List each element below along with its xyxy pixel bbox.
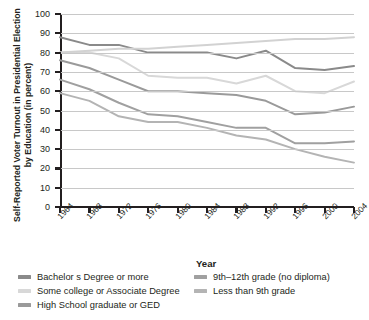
legend-swatch-icon: [194, 289, 207, 293]
y-axis-tick: [55, 129, 61, 131]
chart-legend: Bachelor s Degree or moreSome college or…: [18, 271, 358, 311]
grid-line: [60, 53, 354, 54]
plot-area: [60, 14, 354, 207]
legend-swatch-icon: [18, 303, 31, 307]
legend-item-label: High School graduate or GED: [37, 299, 160, 311]
legend-item: Bachelor s Degree or more: [18, 271, 188, 283]
y-axis-tick-label: 60: [24, 86, 50, 96]
y-axis-tick-label: 0: [24, 202, 50, 212]
legend-column-2: 9th–12th grade (no diploma)Less than 9th…: [194, 271, 330, 311]
y-axis-tick-label: 30: [24, 144, 50, 154]
y-axis-tick-label: 20: [24, 163, 50, 173]
legend-item-label: Bachelor s Degree or more: [37, 271, 149, 283]
y-axis-tick-label: 70: [24, 67, 50, 77]
x-axis-tick-label: 1964: [55, 201, 75, 221]
y-axis-tick-label: 90: [24, 28, 50, 38]
grid-line: [60, 168, 354, 169]
y-axis-tick: [55, 90, 61, 92]
y-axis-tick-label: 10: [24, 183, 50, 193]
legend-item-label: 9th–12th grade (no diploma): [213, 271, 330, 283]
legend-swatch-icon: [18, 275, 31, 279]
grid-line: [60, 72, 354, 73]
grid-line: [60, 14, 354, 15]
y-axis-tick: [55, 71, 61, 73]
y-axis-tick-label: 100: [24, 9, 50, 19]
legend-column-1: Bachelor s Degree or moreSome college or…: [18, 271, 188, 311]
y-axis-tick-label: 50: [24, 106, 50, 116]
grid-line: [60, 149, 354, 150]
legend-item-label: Some college or Associate Degree: [37, 285, 180, 297]
legend-item: Some college or Associate Degree: [18, 285, 188, 297]
legend-swatch-icon: [18, 289, 31, 293]
x-axis-title: Year: [196, 258, 216, 269]
y-axis-tick: [55, 110, 61, 112]
grid-line: [60, 91, 354, 92]
series-line: [60, 93, 354, 162]
grid-line: [60, 130, 354, 131]
legend-item: Less than 9th grade: [194, 285, 330, 297]
legend-item-label: Less than 9th grade: [213, 285, 295, 297]
y-axis-tick: [55, 52, 61, 54]
legend-item: High School graduate or GED: [18, 299, 188, 311]
grid-line: [60, 188, 354, 189]
legend-swatch-icon: [194, 275, 207, 279]
y-axis-tick: [55, 148, 61, 150]
y-axis-tick-label: 40: [24, 125, 50, 135]
y-axis-tick: [55, 13, 61, 15]
legend-item: 9th–12th grade (no diploma): [194, 271, 330, 283]
y-axis-tick-label: 80: [24, 48, 50, 58]
grid-line: [60, 33, 354, 34]
y-axis-tick: [55, 187, 61, 189]
grid-line: [60, 111, 354, 112]
y-axis-tick: [55, 167, 61, 169]
y-axis-tick: [55, 32, 61, 34]
